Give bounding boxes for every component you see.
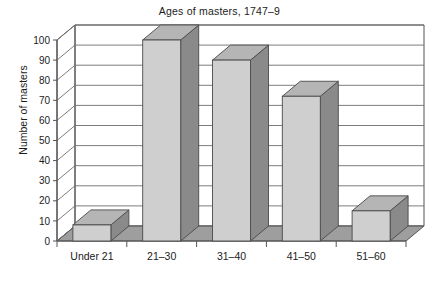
axis-depth-connector bbox=[57, 65, 75, 80]
y-axis-tick-label: 90 bbox=[39, 55, 51, 66]
bar-3 bbox=[213, 45, 269, 241]
bar-2 bbox=[143, 25, 199, 241]
axis-depth-connector bbox=[57, 146, 75, 161]
bar-front-face bbox=[213, 60, 251, 241]
y-axis-tick-label: 40 bbox=[39, 155, 51, 166]
axis-depth-connector bbox=[57, 186, 75, 201]
x-axis-category-label: 21–30 bbox=[147, 250, 176, 262]
y-axis-tick-label: 10 bbox=[39, 216, 51, 227]
bar-front-face bbox=[143, 40, 181, 241]
bar-front-face bbox=[73, 225, 111, 241]
bar-side-face bbox=[181, 25, 199, 241]
axis-depth-connector bbox=[57, 126, 75, 141]
chart-plot-area: 0102030405060708090100Under 2121–3031–40… bbox=[0, 0, 439, 281]
axis-depth-connector bbox=[57, 166, 75, 181]
y-axis-tick-label: 50 bbox=[39, 135, 51, 146]
chart-container: Ages of masters, 1747–9 Number of master… bbox=[0, 0, 439, 281]
axis-depth-connector bbox=[57, 85, 75, 100]
bar-front-face bbox=[282, 96, 320, 241]
axis-depth-connector bbox=[57, 45, 75, 60]
y-axis-tick-label: 60 bbox=[39, 115, 51, 126]
bar-front-face bbox=[352, 211, 390, 241]
y-axis-tick-label: 20 bbox=[39, 195, 51, 206]
bar-side-face bbox=[320, 81, 338, 241]
x-axis-category-label: 41–50 bbox=[287, 250, 316, 262]
y-axis-tick-label: 70 bbox=[39, 95, 51, 106]
axis-depth-connector bbox=[57, 105, 75, 120]
x-axis-category-label: Under 21 bbox=[70, 250, 113, 262]
bar-4 bbox=[282, 81, 338, 241]
axis-depth-connector bbox=[57, 25, 75, 40]
axis-depth-connector bbox=[57, 206, 75, 221]
y-axis-tick-label: 0 bbox=[44, 236, 50, 247]
y-axis-tick-label: 30 bbox=[39, 175, 51, 186]
y-axis-tick-label: 80 bbox=[39, 75, 51, 86]
bar-side-face bbox=[251, 45, 269, 241]
x-axis-category-label: 31–40 bbox=[217, 250, 246, 262]
y-axis-tick-label: 100 bbox=[33, 35, 50, 46]
x-axis-category-label: 51–60 bbox=[356, 250, 385, 262]
